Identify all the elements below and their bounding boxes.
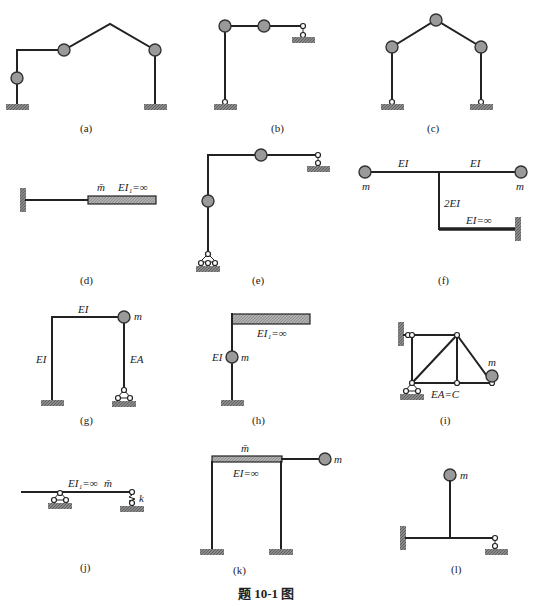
figure-title: 题 10-1 图 [238, 586, 294, 601]
mass-icon [118, 311, 130, 323]
svg-text:EI=∞: EI=∞ [232, 467, 259, 479]
svg-text:EI: EI [469, 157, 482, 169]
svg-text:2EI: 2EI [444, 197, 461, 209]
caption-k: (k) [233, 564, 246, 577]
svg-text:EI: EI [397, 157, 410, 169]
svg-text:EI: EI [35, 353, 48, 365]
panel-f: EI EI m m 2EI EI=∞ (f) [359, 157, 527, 287]
panel-l: m (l) [400, 469, 508, 576]
panel-a: (a) [6, 24, 167, 135]
mass-icon [219, 20, 231, 32]
mass-icon [226, 351, 238, 363]
mass-icon [359, 166, 371, 178]
mass-icon [149, 44, 161, 56]
svg-text:m̄: m̄ [241, 442, 249, 454]
svg-text:EI: EI [211, 351, 224, 363]
svg-text:m̄: m̄ [97, 181, 105, 193]
svg-text:m: m [362, 180, 370, 192]
panel-b: (b) [214, 20, 315, 135]
panel-d: m̄ EI₁=∞ (d) [20, 181, 156, 287]
mass-icon [58, 44, 70, 56]
svg-text:m: m [334, 453, 342, 465]
svg-text:EI₁=∞: EI₁=∞ [67, 477, 98, 489]
mass-icon [386, 41, 398, 53]
svg-text:k: k [139, 492, 145, 504]
mass-icon [319, 453, 331, 465]
svg-text:EA=C: EA=C [430, 388, 460, 400]
caption-d: (d) [80, 274, 93, 287]
svg-text:EI: EI [77, 303, 90, 315]
panel-h: EI₁=∞ EI m (h) [211, 314, 310, 427]
svg-text:EI₁=∞: EI₁=∞ [256, 327, 287, 339]
panel-k: m̄ EI=∞ m (k) [200, 442, 342, 577]
caption-c: (c) [427, 122, 440, 135]
caption-g: (g) [80, 414, 93, 427]
svg-text:m: m [241, 351, 249, 363]
figure-canvas: (a) (b) (c) m̄ EI₁=∞ (d) [0, 0, 535, 606]
mass-icon [258, 20, 270, 32]
panel-i: m EA=C (i) [398, 322, 498, 427]
caption-f: (f) [438, 274, 449, 287]
mass-icon [486, 370, 498, 382]
svg-text:EI₁=∞: EI₁=∞ [117, 181, 148, 193]
mass-icon [515, 166, 527, 178]
mass-icon [255, 149, 267, 161]
panel-g: EI m EI EA (g) [35, 303, 144, 427]
panel-j: EI₁=∞ m̄ k (j) [22, 477, 145, 574]
panel-c: (c) [381, 14, 493, 135]
caption-j: (j) [80, 561, 91, 574]
mass-icon [202, 195, 214, 207]
svg-text:m: m [460, 469, 468, 481]
caption-i: (i) [440, 414, 451, 427]
caption-e: (e) [252, 274, 265, 287]
svg-text:m̄: m̄ [104, 477, 112, 489]
svg-text:EI=∞: EI=∞ [465, 214, 492, 226]
mass-icon [475, 41, 487, 53]
caption-b: (b) [271, 122, 284, 135]
svg-text:m: m [134, 310, 142, 322]
caption-a: (a) [80, 122, 93, 135]
mass-icon [11, 72, 23, 84]
mass-icon [444, 469, 456, 481]
svg-text:m: m [488, 356, 496, 368]
panel-e: (e) [196, 149, 330, 287]
svg-text:m: m [516, 180, 524, 192]
caption-l: (l) [451, 563, 462, 576]
svg-text:EA: EA [129, 353, 144, 365]
mass-icon [430, 14, 442, 26]
caption-h: (h) [252, 414, 265, 427]
